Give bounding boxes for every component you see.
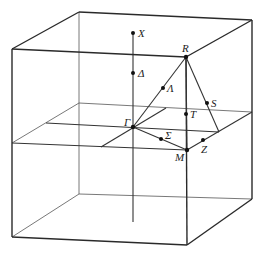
point-X [131,31,135,35]
label-S: S [211,97,217,109]
point-S [205,101,209,105]
label-R: R [181,42,189,54]
label-Z: Z [201,143,208,155]
point-T [184,112,188,116]
label-T: T [190,108,197,120]
point-Lambda [161,86,165,90]
point-Gamma [131,125,135,129]
label-Sigma: Σ [164,129,172,141]
point-M [185,148,189,152]
point-Z [201,138,205,142]
label-Delta: Δ [137,67,144,79]
cube-diagram: X Δ R Λ S T Γ Σ M Z [0,0,261,256]
label-Gamma: Γ [123,116,131,128]
label-M: M [174,151,185,163]
point-Sigma [159,137,163,141]
label-Lambda: Λ [166,82,174,94]
label-X: X [137,27,146,39]
point-R [184,55,188,59]
point-Delta [131,71,135,75]
